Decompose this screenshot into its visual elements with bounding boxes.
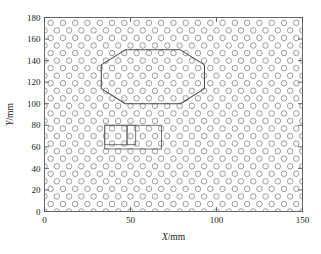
plot-frame	[45, 18, 303, 212]
y-tick-label: 60	[32, 142, 42, 152]
y-tick-label: 20	[32, 185, 42, 195]
y-axis-label: Y/mm	[5, 103, 15, 126]
y-tick-label: 100	[27, 99, 41, 109]
y-tick-label: 120	[27, 77, 41, 87]
x-tick-label: 0	[42, 215, 47, 225]
x-tick-label: 50	[126, 215, 136, 225]
plot-svg: 050100150020406080100120140160180X/mmY/m…	[0, 0, 321, 254]
x-tick-label: 150	[296, 215, 310, 225]
y-tick-label: 180	[27, 13, 41, 23]
y-tick-label: 140	[27, 56, 41, 66]
y-tick-label: 80	[32, 120, 42, 130]
x-tick-label: 100	[210, 215, 224, 225]
y-tick-label: 160	[27, 34, 41, 44]
x-axis-label: X/mm	[161, 232, 186, 242]
y-tick-label: 40	[32, 164, 42, 174]
figure-container: 050100150020406080100120140160180X/mmY/m…	[0, 0, 321, 254]
y-tick-label: 0	[36, 207, 41, 217]
